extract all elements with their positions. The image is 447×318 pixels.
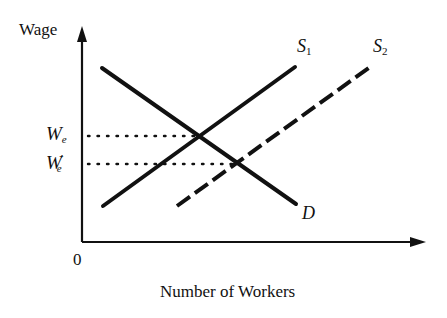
s1-label: S1 xyxy=(297,36,312,57)
d-label: D xyxy=(302,203,315,224)
y-axis-label: Wage xyxy=(19,20,57,40)
y-axis-arrow-icon xyxy=(77,26,87,42)
s2-label: S2 xyxy=(373,36,388,57)
origin-label: 0 xyxy=(73,250,82,270)
we-prime-label: W′e xyxy=(46,151,62,174)
we-label: We xyxy=(46,123,67,145)
x-axis-label: Number of Workers xyxy=(160,282,295,302)
supply-curve-s2 xyxy=(177,67,370,206)
x-axis-arrow-icon xyxy=(410,237,426,247)
